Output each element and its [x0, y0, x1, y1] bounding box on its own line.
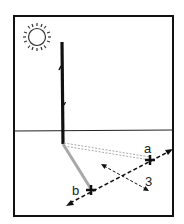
label-a: a — [144, 141, 152, 156]
label-b: b — [72, 183, 79, 198]
shadow-stick-diagram: a b 3 — [0, 0, 184, 224]
label-step-3: 3 — [145, 174, 152, 189]
